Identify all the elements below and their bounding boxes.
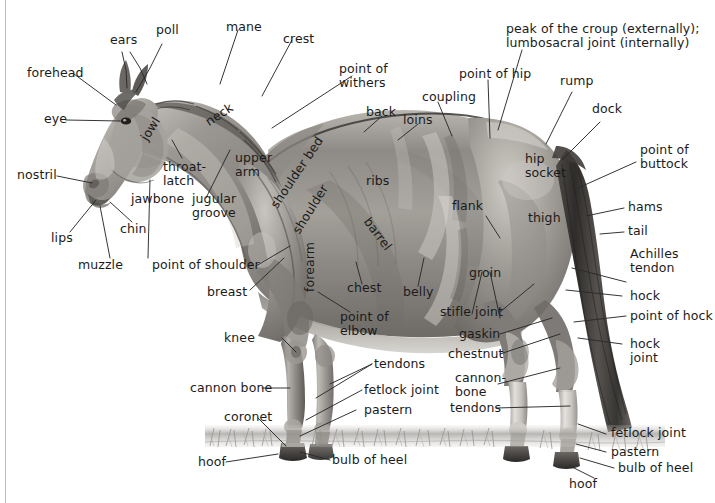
label-muzzle: muzzle <box>78 258 123 272</box>
label-jugular-groove: jugular groove <box>192 192 236 220</box>
label-neck: neck <box>203 101 236 129</box>
label-fetlock-joint-fore: fetlock joint <box>364 383 439 397</box>
label-knee: knee <box>224 331 255 345</box>
label-bulb-of-heel-hind: bulb of heel <box>618 461 693 475</box>
label-pastern-hind: pastern <box>611 445 659 459</box>
label-point-of-hock: point of hock <box>630 309 713 323</box>
label-jawbone: jawbone <box>131 192 184 206</box>
label-loins: loins <box>403 113 433 127</box>
label-point-of-withers: point of withers <box>339 62 388 90</box>
label-poll: poll <box>156 23 179 37</box>
label-pastern-fore: pastern <box>364 403 412 417</box>
horse-anatomy-diagram: ears poll mane crest forehead eye nostri… <box>0 0 715 503</box>
label-nostril: nostril <box>17 168 57 182</box>
label-hoof-fore: hoof <box>198 455 226 469</box>
label-point-of-shoulder: point of shoulder <box>152 258 260 272</box>
label-chestnut: chestnut <box>448 347 503 361</box>
label-jowl: jowl <box>138 115 163 144</box>
label-cannon-bone-hind: cannon- bone <box>455 371 506 399</box>
label-belly: belly <box>403 285 433 299</box>
label-shoulder: shoulder <box>290 182 331 236</box>
label-ribs: ribs <box>366 174 389 188</box>
label-chin: chin <box>120 222 147 236</box>
label-throatlatch: throat- latch <box>163 160 206 188</box>
label-peak-of-croup: peak of the croup (externally); lumbosac… <box>506 22 700 50</box>
label-achilles-tendon: Achilles tendon <box>630 247 679 275</box>
label-upper-arm: upper arm <box>235 151 272 179</box>
label-breast: breast <box>207 285 247 299</box>
label-dock: dock <box>592 102 622 116</box>
label-groin: groin <box>469 266 501 280</box>
label-thigh: thigh <box>528 211 561 225</box>
label-flank: flank <box>452 199 483 213</box>
label-coupling: coupling <box>422 90 476 104</box>
label-hock: hock <box>630 289 660 303</box>
label-barrel: barrel <box>361 215 395 253</box>
label-ears: ears <box>110 33 137 47</box>
label-point-of-elbow: point of elbow <box>340 310 389 338</box>
label-stifle-joint: stifle joint <box>440 305 503 319</box>
label-hoof-hind: hoof <box>569 477 597 491</box>
label-forehead: forehead <box>27 66 84 80</box>
label-chest: chest <box>347 281 381 295</box>
label-back: back <box>366 105 396 119</box>
label-gaskin: gaskin <box>459 327 500 341</box>
label-rump: rump <box>560 74 594 88</box>
label-lips: lips <box>51 231 73 245</box>
label-tendons-hind: tendons <box>450 401 501 415</box>
label-tendons-fore: tendons <box>374 357 425 371</box>
label-cannon-bone-fore: cannon bone <box>190 381 272 395</box>
label-hip-socket: hip socket <box>525 152 566 180</box>
label-coronet: coronet <box>224 410 272 424</box>
label-point-of-buttock: point of buttock <box>640 143 689 171</box>
label-bulb-of-heel-fore: bulb of heel <box>332 453 407 467</box>
label-tail: tail <box>628 224 648 238</box>
label-point-of-hip: point of hip <box>459 67 531 81</box>
label-hock-joint: hock joint <box>630 337 660 365</box>
label-mane: mane <box>226 20 262 34</box>
label-eye: eye <box>44 112 67 126</box>
label-fetlock-joint-hind: fetlock joint <box>611 426 686 440</box>
label-forearm: forearm <box>303 242 317 292</box>
label-crest: crest <box>283 32 314 46</box>
label-hams: hams <box>628 200 663 214</box>
